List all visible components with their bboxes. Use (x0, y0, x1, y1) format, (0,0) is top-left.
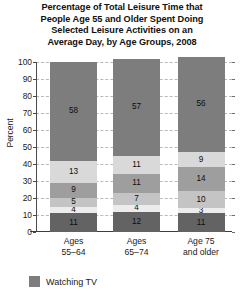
bar-segment[interactable]: 4 (50, 207, 97, 214)
y-tick-label: 10 (23, 210, 32, 220)
y-tick-label: 90 (23, 74, 32, 84)
y-tick-label: 50 (23, 142, 32, 152)
x-axis-label-line: and older (156, 247, 244, 258)
y-tick-mark-right (232, 147, 235, 148)
y-tick-mark-right (232, 232, 235, 233)
bar-segment[interactable]: 57 (113, 59, 160, 156)
y-tick-mark-right (232, 130, 235, 131)
y-tick-mark-right (232, 181, 235, 182)
y-tick-mark-right (232, 96, 235, 97)
y-axis-label: Percent (5, 105, 15, 161)
legend-swatch-watching-tv (29, 276, 40, 287)
bar-segment[interactable]: 4 (113, 205, 160, 212)
y-tick-label: 20 (23, 193, 32, 203)
y-tick-label: 100 (18, 57, 32, 67)
y-tick-mark-right (232, 198, 235, 199)
bar-segment[interactable]: 5 (50, 198, 97, 207)
y-tick-mark-right (232, 113, 235, 114)
y-tick-mark (33, 232, 36, 233)
legend-label-watching-tv: Watching TV (46, 277, 97, 287)
bar-column[interactable]: 1131014956 (178, 57, 225, 232)
bar-segment[interactable]: 7 (113, 193, 160, 205)
bar-segment[interactable]: 10 (178, 191, 225, 208)
bar-segment[interactable]: 11 (113, 174, 160, 193)
bar-segment[interactable]: 9 (50, 183, 97, 198)
x-axis-label: Age 75and older (156, 236, 244, 257)
plot-area: 0102030405060708090100 11459135812471111… (36, 62, 232, 232)
bar-segment[interactable]: 12 (113, 212, 160, 232)
y-tick-label: 70 (23, 108, 32, 118)
y-tick-mark-right (232, 79, 235, 80)
bar-column[interactable]: 114591358 (50, 62, 97, 232)
bar-segment[interactable]: 56 (178, 57, 225, 152)
chart-title-line-2: People Age 55 and Older Spent Doing (8, 14, 236, 26)
chart-title-line-3: Selected Leisure Activities on an (8, 25, 236, 37)
y-tick-label: 40 (23, 159, 32, 169)
y-tick-label: 30 (23, 176, 32, 186)
bar-column[interactable]: 1247111157 (113, 59, 160, 232)
bar-segment[interactable]: 14 (178, 167, 225, 191)
y-tick-label: 60 (23, 125, 32, 135)
y-tick-mark-right (232, 62, 235, 63)
x-axis-label-line: Age 75 (156, 236, 244, 247)
chart-title: Percentage of Total Leisure Time that Pe… (8, 2, 236, 49)
y-axis-line (36, 62, 37, 232)
chart-title-line-1: Percentage of Total Leisure Time that (8, 2, 236, 14)
y-tick-mark-right (232, 215, 235, 216)
bar-segment[interactable]: 11 (178, 213, 225, 232)
y-tick-label: 80 (23, 91, 32, 101)
bar-segment[interactable]: 11 (113, 156, 160, 175)
bar-segment[interactable]: 11 (50, 213, 97, 232)
y-tick-mark-right (232, 164, 235, 165)
chart-title-line-4: Average Day, by Age Groups, 2008 (8, 37, 236, 49)
legend: Watching TV (29, 276, 97, 287)
stacked-bar-chart: Percentage of Total Leisure Time that Pe… (0, 0, 244, 292)
bar-segment[interactable]: 9 (178, 152, 225, 167)
bar-segment[interactable]: 13 (50, 161, 97, 183)
bar-segment[interactable]: 58 (50, 62, 97, 161)
